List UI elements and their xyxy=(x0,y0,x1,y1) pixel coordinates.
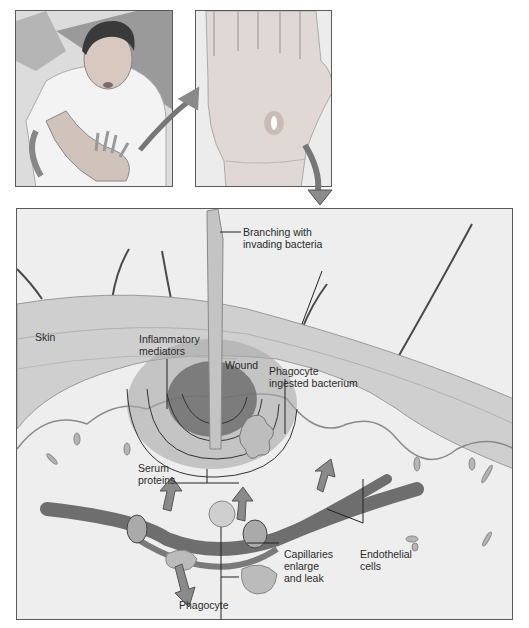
label-phagocyte: Phagocyte xyxy=(179,599,229,611)
label-serum-proteins: Serum proteins xyxy=(138,462,175,486)
skin-cross-section-panel xyxy=(16,208,513,620)
hand-wound-panel xyxy=(195,10,332,187)
label-branching-bacteria: Branching with invading bacteria xyxy=(243,226,322,250)
label-endothelial-cells: Endothelial cells xyxy=(360,548,412,572)
label-wound: Wound xyxy=(225,359,258,371)
hand-illustration xyxy=(196,11,332,187)
label-skin: Skin xyxy=(35,331,55,343)
label-phagocyte-ingested-bacterium: Phagocyte ingested bacterium xyxy=(269,365,358,389)
label-inflammatory-mediators: Inflammatory mediators xyxy=(139,333,200,357)
person-illustration xyxy=(16,11,173,187)
skin-cross-section xyxy=(17,209,513,620)
label-capillaries: Capillaries enlarge and leak xyxy=(284,548,333,584)
person-illustration-panel xyxy=(15,10,173,187)
